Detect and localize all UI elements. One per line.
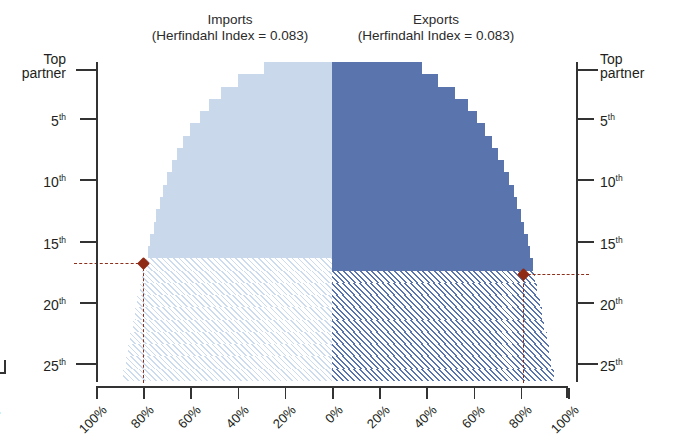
- bar-imports-rank-15: [150, 234, 332, 247]
- bar-exports-rank-10: [332, 172, 509, 185]
- bar-exports-rank-15: [332, 234, 528, 247]
- imports-threshold-drop-line: [143, 263, 144, 383]
- y-tick-left-10: [80, 179, 98, 181]
- x-tick-20%: [379, 388, 381, 399]
- bar-imports-rank-8: [177, 148, 332, 161]
- bar-imports-rank-7: [183, 136, 332, 149]
- bar-exports-rank-5: [332, 111, 477, 124]
- y-tick-left-1: [76, 69, 98, 71]
- y-label-left-10: 10th: [43, 171, 66, 189]
- y-tick-left-15: [80, 241, 98, 243]
- x-tick-80%: [521, 388, 523, 399]
- imports-panel: [96, 62, 332, 381]
- x-tick-60%: [190, 388, 192, 399]
- imports-bars: [96, 62, 332, 381]
- imports-title-block: Imports (Herfindahl Index = 0.083): [124, 12, 336, 43]
- y-tick-right-5: [576, 118, 594, 120]
- bar-imports-rank-3: [221, 87, 332, 100]
- x-tick-60%: [474, 388, 476, 399]
- bar-imports-rank-1: [264, 62, 332, 75]
- bar-exports-rank-19: [332, 283, 537, 296]
- bar-exports-rank-20: [332, 295, 540, 308]
- exports-threshold-drop-line: [523, 274, 524, 383]
- imports-subtitle: (Herfindahl Index = 0.083): [124, 28, 336, 44]
- bar-imports-rank-21: [135, 307, 332, 320]
- x-tick-40%: [426, 388, 428, 399]
- bar-imports-rank-24: [128, 344, 332, 357]
- y-label-right-25: 25th: [600, 355, 623, 373]
- bar-imports-rank-11: [163, 185, 332, 198]
- bar-exports-rank-14: [332, 222, 524, 235]
- exports-panel: [332, 62, 568, 381]
- x-tick-20%: [285, 388, 287, 399]
- bar-imports-rank-13: [156, 209, 332, 222]
- bar-imports-rank-20: [137, 295, 332, 308]
- y-tick-right-10: [576, 179, 594, 181]
- cropped-axis-bracket-spine: [4, 360, 6, 374]
- exports-subtitle: (Herfindahl Index = 0.083): [330, 28, 542, 44]
- bar-imports-rank-18: [142, 271, 332, 284]
- bar-exports-rank-24: [332, 344, 549, 357]
- bar-imports-rank-9: [172, 160, 332, 173]
- y-axis-right-spine: [576, 62, 578, 382]
- bar-exports-rank-7: [332, 136, 492, 149]
- y-tick-left-25: [76, 363, 98, 365]
- y-tick-left-20: [80, 302, 98, 304]
- x-tick-0%: [332, 388, 334, 399]
- imports-title: Imports: [124, 12, 336, 28]
- y-label-left-20: 20th: [43, 294, 66, 312]
- bar-imports-rank-2: [238, 74, 332, 87]
- y-label-left-15: 15th: [43, 233, 66, 251]
- bar-imports-rank-12: [160, 197, 332, 210]
- tornado-chart-figure: Imports (Herfindahl Index = 0.083) Expor…: [0, 0, 674, 442]
- bar-exports-rank-23: [332, 332, 547, 345]
- exports-title: Exports: [330, 12, 542, 28]
- bar-imports-rank-4: [209, 99, 332, 112]
- bar-exports-rank-2: [332, 74, 438, 87]
- bar-exports-rank-11: [332, 185, 514, 198]
- bar-imports-rank-17: [146, 258, 332, 271]
- y-label-left-5: 5th: [51, 110, 66, 128]
- x-tick-100%: [568, 388, 570, 399]
- bar-exports-rank-4: [332, 99, 468, 112]
- y-tick-right-25: [576, 363, 598, 365]
- y-tick-left-5: [80, 118, 98, 120]
- x-tick-100%: [96, 388, 98, 399]
- x-tick-80%: [143, 388, 145, 399]
- x-label-100%: 100%: [12, 403, 109, 442]
- y-label-right-10: 10th: [600, 171, 623, 189]
- bar-imports-rank-23: [130, 332, 332, 345]
- bar-exports-rank-9: [332, 160, 504, 173]
- bar-exports-rank-3: [332, 87, 455, 100]
- y-tick-right-15: [576, 241, 594, 243]
- bar-imports-rank-6: [190, 123, 332, 136]
- exports-bars: [332, 62, 568, 381]
- y-label-right-20: 20th: [600, 294, 623, 312]
- bar-exports-rank-17: [332, 258, 533, 271]
- bar-imports-rank-19: [140, 283, 332, 296]
- exports-title-block: Exports (Herfindahl Index = 0.083): [330, 12, 542, 43]
- plot-area: [96, 62, 568, 381]
- bar-exports-rank-13: [332, 209, 521, 222]
- y-label-right-15: 15th: [600, 233, 623, 251]
- y-tick-right-1: [576, 69, 598, 71]
- y-axis-left-spine: [96, 62, 98, 382]
- bar-exports-rank-25: [332, 356, 551, 369]
- bar-imports-rank-22: [133, 320, 332, 333]
- bar-exports-rank-26: [332, 369, 554, 381]
- bar-imports-rank-10: [167, 172, 332, 185]
- x-tick-40%: [238, 388, 240, 399]
- bar-exports-rank-22: [332, 320, 544, 333]
- y-axis-left: [72, 62, 98, 382]
- bar-exports-rank-8: [332, 148, 498, 161]
- bar-exports-rank-18: [332, 271, 535, 284]
- bar-imports-rank-16: [148, 246, 332, 259]
- y-label-right-5: 5th: [600, 110, 615, 128]
- y-label-left-1: Toppartner: [22, 52, 66, 81]
- y-tick-right-20: [576, 302, 594, 304]
- bar-exports-rank-1: [332, 62, 422, 75]
- bar-imports-rank-26: [123, 369, 332, 381]
- cropped-x-axis-label: 0%: [0, 404, 3, 428]
- bar-exports-rank-12: [332, 197, 517, 210]
- bar-exports-rank-21: [332, 307, 542, 320]
